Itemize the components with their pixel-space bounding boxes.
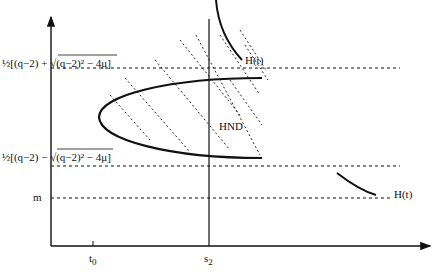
hnd-boundary-curve <box>99 78 262 158</box>
hnd-region-label: HND <box>219 120 243 132</box>
phase-diagram: ½[(q−2) + √(q−2)² − 4μ] ½[(q−2) − √(q−2)… <box>0 0 433 272</box>
lower-level-label: ½[(q−2) − √(q−2)² − 4μ] <box>2 149 113 164</box>
m-label: m <box>33 191 42 203</box>
svg-text:½[(q−2) + √(q−2)² − 4μ]: ½[(q−2) + √(q−2)² − 4μ] <box>2 57 111 70</box>
h-upper-label: H(t) <box>245 54 264 67</box>
t0-label: t0 <box>89 252 97 267</box>
h-upper-curve <box>216 0 242 60</box>
h-lower-curve <box>337 173 376 195</box>
s2-label: s2 <box>204 252 213 267</box>
upper-level-label: ½[(q−2) + √(q−2)² − 4μ] <box>2 55 117 70</box>
svg-text:½[(q−2) − √(q−2)² − 4μ]: ½[(q−2) − √(q−2)² − 4μ] <box>2 151 111 164</box>
h-lower-label: H(t) <box>394 188 413 201</box>
